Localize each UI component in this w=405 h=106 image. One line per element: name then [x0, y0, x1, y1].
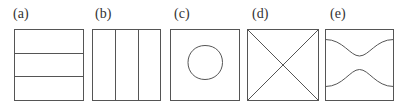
panel-b-diagram	[93, 30, 161, 101]
figure: (a) (b) (c) (d) (e)	[0, 0, 405, 106]
panel-a-diagram	[15, 30, 84, 101]
figure-drawing	[0, 0, 405, 106]
panel-d-diagram	[248, 30, 319, 101]
panel-c-diagram	[171, 30, 240, 101]
panel-e-diagram	[326, 30, 394, 101]
